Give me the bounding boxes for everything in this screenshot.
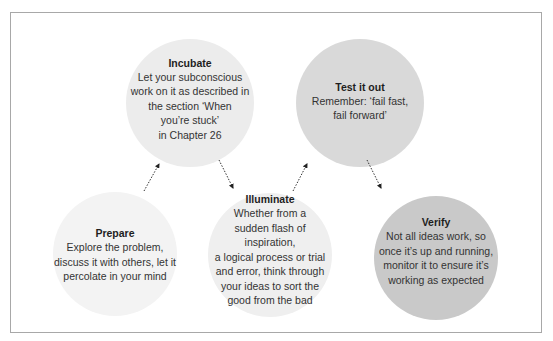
step-test-circle: Test it out Remember: ‘fail fast, fail f… — [296, 39, 424, 167]
step-incubate-circle: Incubate Let your subconscious work on i… — [126, 39, 254, 167]
step-test-description: Remember: ‘fail fast, fail forward’ — [312, 94, 408, 123]
step-test-title: Test it out — [312, 80, 408, 94]
step-illuminate-title: Illuminate — [208, 192, 332, 206]
step-verify-description: Not all ideas work, so once it’s up and … — [379, 229, 493, 287]
step-prepare-circle: Prepare Explore the problem, discuss it … — [53, 192, 177, 316]
step-incubate-description: Let your subconscious work on it as desc… — [131, 70, 249, 143]
step-verify-circle: Verify Not all ideas work, so once it’s … — [374, 196, 498, 320]
step-prepare-title: Prepare — [54, 226, 176, 240]
step-illuminate-description: Whether from a sudden flash of inspirati… — [208, 206, 332, 308]
step-illuminate-circle: Illuminate Whether from a sudden flash o… — [208, 193, 332, 317]
step-prepare-description: Explore the problem, discuss it with oth… — [54, 240, 176, 284]
step-verify-title: Verify — [379, 215, 493, 229]
step-incubate-title: Incubate — [131, 56, 249, 70]
